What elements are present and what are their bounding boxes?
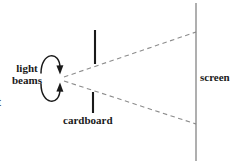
screen-label: screen bbox=[200, 72, 230, 84]
light-beams-label-line2: beams bbox=[12, 75, 42, 87]
lower-curved-arrow bbox=[41, 84, 60, 101]
upper-beam-dashed-line bbox=[64, 32, 196, 77]
light-beams-label: light beams bbox=[12, 63, 42, 86]
clipped-left-text: t bbox=[0, 96, 1, 109]
light-beams-label-line1: light bbox=[12, 63, 42, 75]
cardboard-label: cardboard bbox=[63, 115, 113, 127]
ray-diagram-figure: light beams cardboard screen t bbox=[0, 0, 241, 161]
upper-curved-arrow bbox=[41, 56, 60, 73]
lower-curved-arrow-head bbox=[56, 83, 63, 92]
upper-curved-arrow-head bbox=[56, 65, 63, 74]
